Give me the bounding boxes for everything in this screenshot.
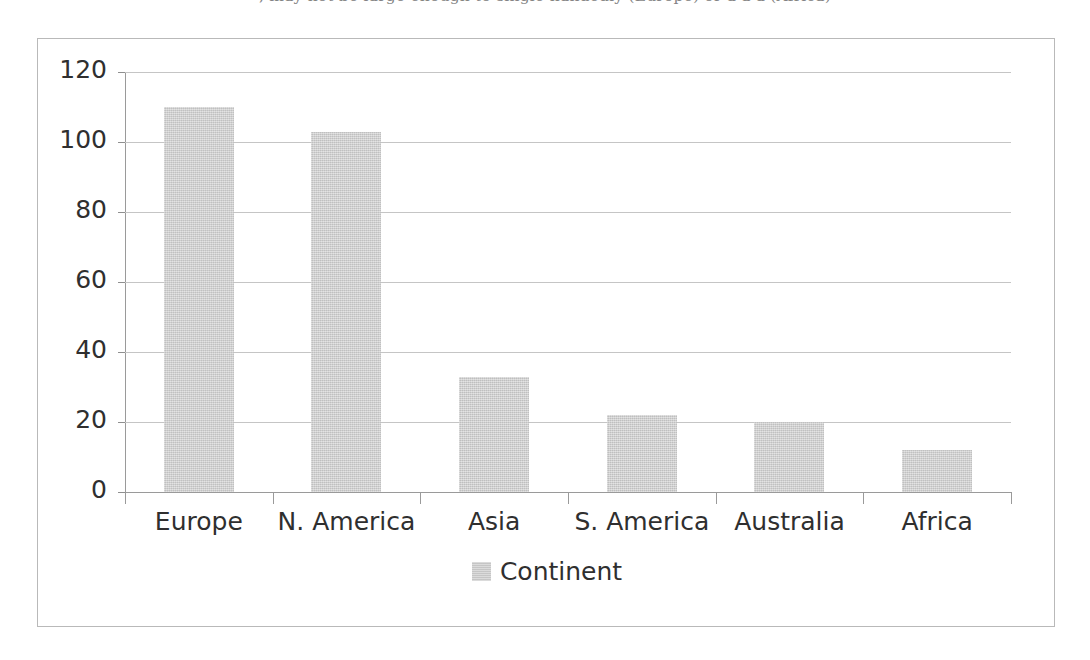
- bar-slot: [716, 72, 864, 492]
- legend-entry[interactable]: Continent: [472, 557, 622, 586]
- y-axis-tick-label: 40: [38, 335, 107, 364]
- y-axis-tick-label: 20: [38, 405, 107, 434]
- x-axis-tick-label: Asia: [420, 507, 568, 536]
- bar[interactable]: [607, 415, 677, 492]
- bar-slot: [568, 72, 716, 492]
- bar[interactable]: [164, 107, 234, 492]
- x-axis-tick-mark: [568, 492, 569, 504]
- x-axis-tick-label: Africa: [863, 507, 1011, 536]
- bar[interactable]: [311, 132, 381, 493]
- x-axis-tick-mark: [420, 492, 421, 504]
- bar-slot: [125, 72, 273, 492]
- x-axis-tick-label: S. America: [568, 507, 716, 536]
- x-axis-tick-label: N. America: [273, 507, 421, 536]
- plot-area: [125, 72, 1011, 492]
- x-axis-tick-mark: [716, 492, 717, 504]
- y-axis-tick-mark: [118, 212, 125, 213]
- y-axis-tick-label: 60: [38, 265, 107, 294]
- x-axis-ticks: [125, 492, 1011, 506]
- y-axis-tick-label: 80: [38, 195, 107, 224]
- x-axis-tick-mark: [1011, 492, 1012, 504]
- legend-swatch-icon: [472, 562, 491, 581]
- x-axis-tick-label: Europe: [125, 507, 273, 536]
- y-axis-tick-mark: [118, 492, 125, 493]
- bar-slot: [420, 72, 568, 492]
- y-axis-tick-mark: [118, 352, 125, 353]
- bar-slot: [273, 72, 421, 492]
- y-axis-tick-mark: [118, 422, 125, 423]
- y-axis-tick-mark: [118, 142, 125, 143]
- x-axis-tick-label: Australia: [716, 507, 864, 536]
- x-axis-tick-labels: EuropeN. AmericaAsiaS. AmericaAustraliaA…: [125, 507, 1011, 547]
- bar[interactable]: [902, 450, 972, 492]
- clipped-caption-text: , may not be large enough to single-hand…: [0, 0, 1090, 5]
- x-axis-tick-mark: [273, 492, 274, 504]
- bars-group: [125, 72, 1011, 492]
- bar-slot: [863, 72, 1011, 492]
- y-axis-tick-label: 0: [38, 475, 107, 504]
- y-axis-tick-label: 120: [38, 55, 107, 84]
- x-axis-tick-mark: [863, 492, 864, 504]
- bar[interactable]: [459, 377, 529, 493]
- y-axis-tick-mark: [118, 72, 125, 73]
- chart-frame: 020406080100120 EuropeN. AmericaAsiaS. A…: [37, 38, 1055, 627]
- x-axis-tick-mark: [125, 492, 126, 504]
- bar[interactable]: [754, 422, 824, 492]
- chart-legend: Continent: [38, 557, 1056, 586]
- y-axis-tick-label: 100: [38, 125, 107, 154]
- legend-label: Continent: [500, 557, 622, 586]
- y-axis-tick-mark: [118, 282, 125, 283]
